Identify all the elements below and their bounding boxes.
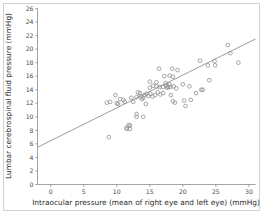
x-tick-label: 15 <box>146 188 154 195</box>
y-tick-label: 6 <box>30 140 34 147</box>
y-tick-label: 2 <box>30 167 34 174</box>
y-tick-label: 8 <box>30 127 34 134</box>
x-tick-label: 30 <box>245 188 253 195</box>
y-tick-label: 18 <box>26 59 34 66</box>
y-tick-label: 24 <box>26 18 34 25</box>
x-tick-label: 10 <box>113 188 121 195</box>
y-tick-label: 20 <box>26 45 34 52</box>
y-tick-label: 10 <box>26 113 34 120</box>
x-tick-label: 25 <box>212 188 220 195</box>
y-tick-label: 22 <box>26 32 34 39</box>
figure-background <box>3 3 260 211</box>
x-tick-label: 20 <box>179 188 187 195</box>
y-tick-label: 4 <box>30 154 34 161</box>
y-tick-label: 14 <box>26 86 34 93</box>
scatter-plot-figure: 02468101214161820222426 051015202530 Int… <box>0 0 263 214</box>
y-tick-label: 26 <box>26 5 34 12</box>
x-tick-label: 0 <box>49 188 53 195</box>
y-tick-label: 16 <box>26 72 34 79</box>
y-tick-label: 12 <box>26 99 34 106</box>
x-tick-label: 5 <box>82 188 86 195</box>
y-tick-label: 0 <box>30 181 34 188</box>
x-axis-title: Intraocular pressure (mean of right eye … <box>32 198 260 207</box>
chart-canvas: 02468101214161820222426 051015202530 Int… <box>0 0 263 214</box>
y-axis-title: Lumbar cerebrospinal fluid pressure (mmH… <box>4 13 13 179</box>
